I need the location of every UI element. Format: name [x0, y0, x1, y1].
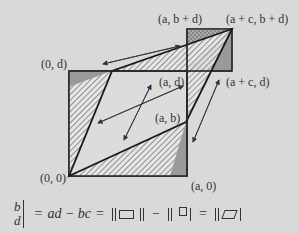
parallelogram-icon [221, 210, 237, 219]
rectangle-area [111, 208, 145, 221]
label-a-zero: (a, 0) [191, 180, 216, 192]
determinant-matrix: b d [14, 200, 24, 228]
parallelogram-diagram [0, 0, 299, 200]
label-a-plus-c-b-plus-d: (a + c, b + d) [226, 13, 288, 25]
label-a-b: (a, b) [155, 112, 180, 124]
determinant-formula: b d = ad − bc = − = [14, 199, 244, 229]
label-origin: (0, 0) [40, 172, 66, 184]
parallelogram-area [214, 208, 242, 221]
label-zero-d: (0, d) [41, 58, 67, 70]
rectangle-icon [119, 210, 134, 219]
label-a-plus-c-d: (a + c, d) [226, 76, 269, 88]
small-rectangle-area [167, 208, 192, 221]
label-a-b-plus-d: (a, b + d) [158, 13, 202, 25]
small-rectangle-icon [179, 207, 187, 216]
ad-minus-bc: ad − bc [47, 206, 91, 222]
label-a-d: (a, d) [159, 76, 184, 88]
